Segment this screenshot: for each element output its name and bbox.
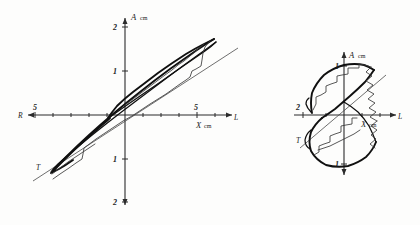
right-x-axis-label: X [360,119,367,129]
figure-root: A cm X cm 2 1 1 2 5 5 R L T [0,0,420,225]
figure-background [0,0,420,225]
left-x-axis-label: X [195,120,202,130]
hysteresis-figure-svg: A cm X cm 2 1 1 2 5 5 R L T [0,0,420,225]
left-y-tick-label-1-top: 1 [113,67,117,76]
left-y-tick-label-2-top: 2 [112,23,117,32]
left-y-axis-label: A [130,12,137,22]
left-y-axis-unit: cm [140,15,148,21]
right-y-tick-label-1-bottom: 1 [335,160,339,169]
right-y-axis-label: A [348,50,355,60]
left-y-tick-label-2-bottom: 2 [112,198,117,207]
left-x-tick-label-left: 5 [33,103,37,112]
right-y-axis-unit: cm [358,53,366,59]
left-x-axis-unit: cm [204,123,212,129]
left-axis-end-label-l: L [233,113,238,122]
right-x-tick-label-left: 2 [295,103,300,112]
right-axis-end-label-l: L [397,112,402,121]
right-y-tick-label-1-top: 1 [335,62,339,71]
left-axis-end-label-r: R [17,111,23,120]
left-y-tick-label-1-bottom: 1 [113,155,117,164]
right-x-axis-unit: cm [369,122,377,128]
left-x-tick-label-right: 5 [194,103,198,112]
